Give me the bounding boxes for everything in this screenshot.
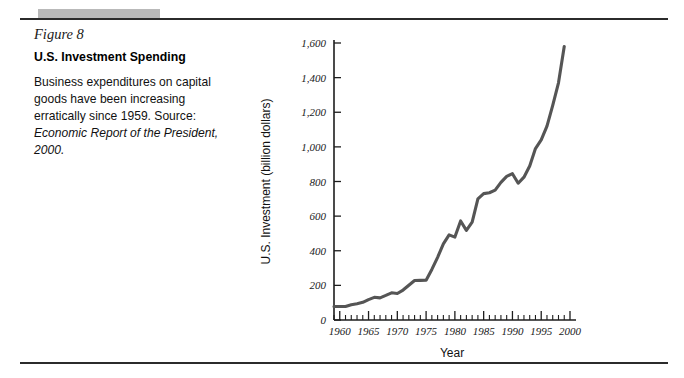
y-tick-label: 0	[321, 314, 327, 326]
x-tick-label: 1975	[415, 325, 438, 337]
x-axis-title: Year	[440, 346, 464, 360]
x-tick-label: 1965	[358, 325, 381, 337]
x-tick-label: 1990	[501, 325, 524, 337]
chart-svg: 02004006008001,0001,2001,4001,600 196019…	[248, 24, 608, 360]
investment-data-line	[334, 46, 564, 306]
y-tick-label: 600	[310, 210, 327, 222]
x-axis-ticks: 196019651970197519801985199019952000	[329, 311, 582, 337]
top-horizontal-rule	[20, 18, 668, 20]
header-grey-block	[38, 9, 160, 18]
x-tick-label: 1995	[530, 325, 553, 337]
figure-description: Business expenditures on capital goods h…	[34, 74, 219, 160]
y-axis-title: U.S. Investment (billion dollars)	[259, 98, 273, 264]
y-tick-label: 1,200	[301, 106, 326, 118]
caption-source-citation: Economic Report of the President, 2000.	[34, 126, 218, 157]
y-tick-label: 800	[310, 176, 327, 188]
figure-title: U.S. Investment Spending	[34, 50, 219, 65]
x-tick-label: 1985	[473, 325, 496, 337]
figure-caption-block: Figure 8 U.S. Investment Spending Busine…	[34, 26, 219, 160]
y-tick-label: 400	[310, 245, 327, 257]
investment-line-chart: 02004006008001,0001,2001,4001,600 196019…	[248, 24, 608, 360]
x-tick-label: 1980	[444, 325, 467, 337]
x-tick-label: 1960	[329, 325, 352, 337]
y-tick-label: 1,600	[301, 37, 326, 49]
y-tick-label: 1,000	[301, 141, 326, 153]
x-tick-label: 1970	[386, 325, 409, 337]
bottom-horizontal-rule	[20, 362, 668, 364]
y-axis-ticks: 02004006008001,0001,2001,4001,600	[301, 37, 341, 326]
figure-number: Figure 8	[34, 26, 219, 43]
y-tick-label: 1,400	[301, 72, 326, 84]
y-tick-label: 200	[310, 279, 327, 291]
x-tick-label: 2000	[559, 325, 582, 337]
caption-main-text: Business expenditures on capital goods h…	[34, 75, 211, 123]
